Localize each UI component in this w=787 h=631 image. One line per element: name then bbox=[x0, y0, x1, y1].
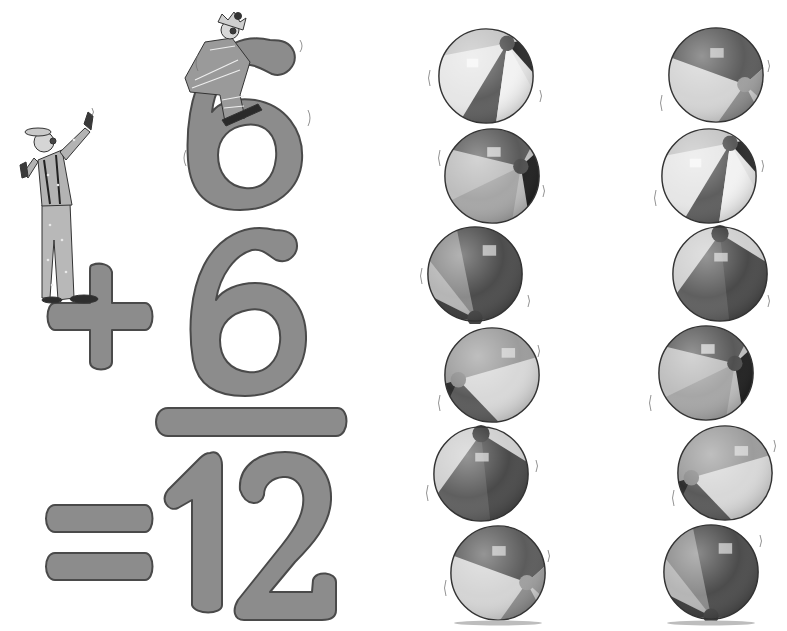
beach-ball bbox=[659, 126, 759, 226]
beach-ball bbox=[675, 423, 775, 523]
beach-ball bbox=[448, 523, 548, 623]
numeral-six-bottom bbox=[191, 228, 307, 396]
beach-ball bbox=[666, 25, 766, 125]
ball-column-right bbox=[656, 25, 775, 626]
beach-ball bbox=[656, 323, 756, 423]
beach-ball bbox=[431, 424, 531, 524]
ground-shadow bbox=[667, 621, 755, 626]
beach-ball bbox=[442, 126, 542, 226]
ground-shadow bbox=[454, 621, 542, 626]
beach-ball bbox=[436, 26, 536, 126]
math-flash-card: 6 + 6 = 12 bbox=[0, 0, 787, 631]
beach-ball bbox=[661, 522, 761, 624]
clown-standing bbox=[20, 112, 98, 303]
beach-ball bbox=[670, 224, 770, 324]
sum-bar bbox=[156, 408, 347, 436]
equals-sign bbox=[46, 505, 153, 580]
numeral-twelve bbox=[165, 452, 336, 620]
beach-ball bbox=[442, 325, 542, 425]
illustration: 6 + 6 = 12 bbox=[0, 0, 787, 631]
ball-column-left bbox=[425, 26, 548, 626]
beach-ball bbox=[425, 224, 525, 326]
